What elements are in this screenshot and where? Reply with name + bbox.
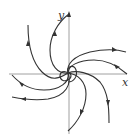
arrow-icon — [21, 97, 26, 101]
arrow-icon — [80, 109, 84, 115]
phase-portrait: x y — [0, 0, 137, 140]
trajectory-3 — [68, 50, 126, 73]
trajectory-1 — [28, 25, 68, 78]
arrow-icon — [106, 100, 110, 106]
y-axis-label: y — [57, 9, 65, 22]
arrow-icon — [112, 47, 117, 52]
axes: x y — [9, 9, 129, 134]
trajectories — [12, 14, 127, 131]
x-axis-label: x — [122, 76, 129, 89]
trajectory-2 — [50, 14, 69, 73]
